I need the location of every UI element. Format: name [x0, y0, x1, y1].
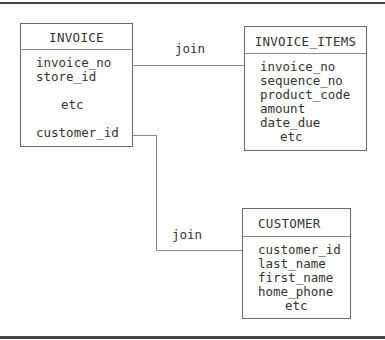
field-etc: etc	[36, 98, 132, 112]
field-amount: amount	[260, 102, 366, 116]
entity-fields: invoice_no store_id etc customer_id	[21, 50, 132, 140]
field-home-phone: home_phone	[258, 285, 350, 299]
field-last-name: last_name	[258, 257, 350, 271]
entity-invoice-items: INVOICE_ITEMS invoice_no sequence_no pro…	[244, 26, 367, 151]
entity-title: INVOICE_ITEMS	[245, 27, 366, 54]
join-connector-invoice-items	[133, 65, 244, 66]
join-label: join	[172, 227, 202, 242]
join-connector-customer-v	[156, 135, 157, 251]
entity-fields: customer_id last_name first_name home_ph…	[243, 237, 350, 313]
entity-title: INVOICE	[21, 24, 132, 50]
entity-invoice: INVOICE invoice_no store_id etc customer…	[20, 23, 133, 147]
join-label: join	[175, 41, 205, 56]
field-customer-id: customer_id	[36, 126, 132, 140]
entity-fields: invoice_no sequence_no product_code amou…	[245, 54, 366, 144]
field-date-due: date_due	[260, 116, 366, 130]
frame-bottom-border	[0, 336, 385, 339]
field-invoice-no: invoice_no	[260, 60, 366, 74]
entity-title: CUSTOMER	[243, 209, 350, 237]
field-etc: etc	[258, 299, 350, 313]
field-invoice-no: invoice_no	[36, 56, 132, 70]
field-product-code: product_code	[260, 88, 366, 102]
field-sequence-no: sequence_no	[260, 74, 366, 88]
field-etc: etc	[260, 130, 366, 144]
field-store-id: store_id	[36, 70, 132, 84]
field-first-name: first_name	[258, 271, 350, 285]
join-connector-customer-h1	[133, 135, 156, 136]
frame-top-border	[0, 2, 385, 4]
field-customer-id: customer_id	[258, 243, 350, 257]
join-connector-customer-h2	[156, 250, 242, 251]
entity-customer: CUSTOMER customer_id last_name first_nam…	[242, 208, 351, 319]
